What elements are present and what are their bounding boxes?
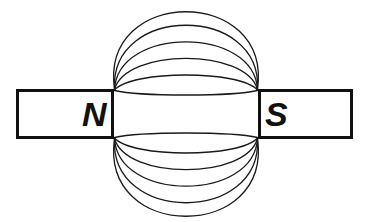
south-pole-label: S [265,97,288,131]
magnetic-field-diagram: N S [0,0,369,222]
field-line-lower-6 [114,139,259,216]
field-line-upper-2 [115,75,258,90]
magnetic-field-lines [114,12,259,217]
field-line-upper-6 [114,12,259,89]
field-line-lower-4 [115,139,258,187]
field-line-lower-1 [115,133,258,138]
field-line-lower-3 [115,139,258,170]
diagram-canvas [0,0,369,222]
field-line-upper-1 [115,91,258,96]
field-line-upper-4 [115,42,258,90]
field-line-lower-2 [115,138,258,153]
field-line-upper-3 [115,58,258,89]
north-pole-label: N [82,97,107,131]
